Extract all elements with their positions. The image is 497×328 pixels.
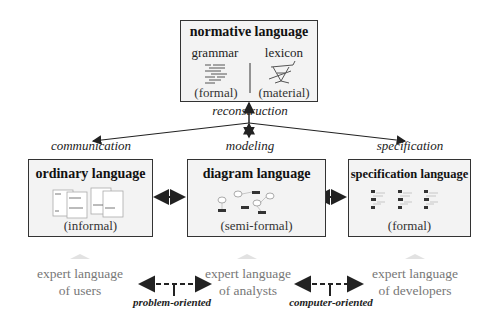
normative-language-box: normative language grammar lexicon (form… <box>180 20 318 102</box>
expert-language-analysts: expert language of analysts <box>197 265 299 299</box>
expert-users-triangle <box>70 254 90 259</box>
specification-language-box: specification language (formal) <box>348 159 471 237</box>
grammar-sub: (formal) <box>183 85 249 101</box>
diagram-language-box: diagram language (semi-formal) <box>187 159 326 237</box>
reconstruction-label: reconstruction <box>200 103 300 119</box>
expert-analysts-triangle <box>237 254 257 259</box>
specification-label: specification <box>360 138 460 154</box>
expert-language-users: expert language of users <box>30 265 130 299</box>
expert-language-developers: expert language of developers <box>365 265 465 299</box>
communication-label: communication <box>36 138 146 154</box>
expert-developers-triangle <box>405 254 425 259</box>
modeling-label: modeling <box>215 138 285 154</box>
computer-oriented-label: computer-oriented <box>276 296 386 308</box>
lexicon-sub: (material) <box>251 85 317 101</box>
diagram-language-sub: (semi-formal) <box>188 218 325 234</box>
lexicon-icon <box>269 61 295 83</box>
problem-oriented-label: problem-oriented <box>122 296 222 308</box>
ordinary-language-box: ordinary language (informal) <box>28 159 153 237</box>
grammar-icon <box>205 65 227 83</box>
ordinary-language-sub: (informal) <box>29 218 152 234</box>
specification-language-sub: (formal) <box>349 218 470 234</box>
